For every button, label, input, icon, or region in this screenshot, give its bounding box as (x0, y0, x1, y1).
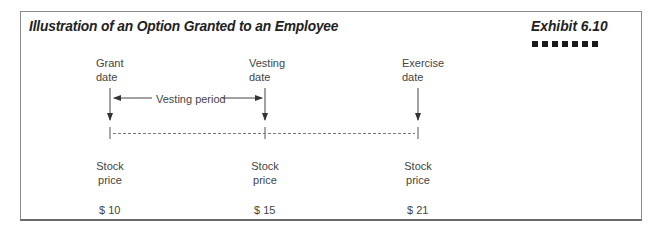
vesting-price: $ 15 (254, 203, 275, 217)
stock-price-label-vesting: Stock price (247, 159, 283, 187)
grant-price: $ 10 (99, 203, 120, 217)
timeline-diagram (0, 0, 660, 231)
exercise-price: $ 21 (407, 203, 428, 217)
stock-price-label-exercise: Stock price (400, 159, 436, 187)
stock-price-label-grant: Stock price (92, 159, 128, 187)
